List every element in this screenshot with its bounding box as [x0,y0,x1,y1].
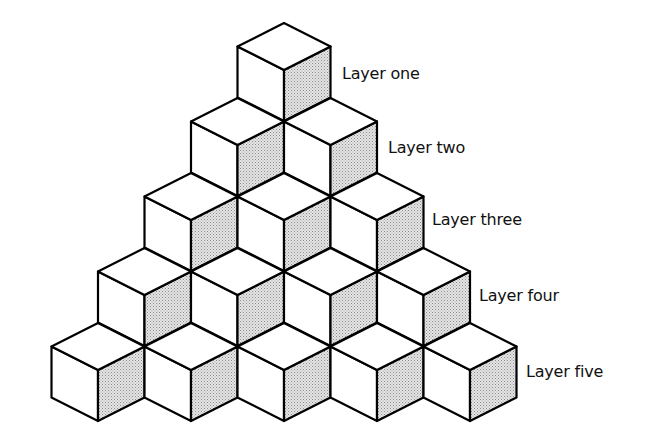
layer-four-label: Layer four [479,288,559,304]
pyramid-diagram: Layer one Layer two Layer three Layer fo… [0,0,646,447]
layer-one-label: Layer one [342,66,420,82]
layer-five-label: Layer five [526,364,603,380]
layer-two-label: Layer two [388,140,465,156]
layer-three-label: Layer three [432,212,522,228]
